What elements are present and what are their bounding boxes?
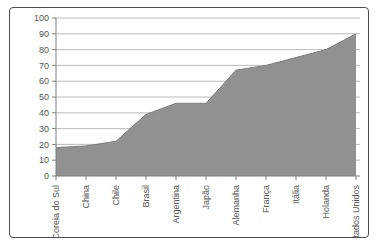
x-axis-labels: Coreia do SulChinaChileBrasilArgentinaJa… — [51, 185, 361, 237]
x-category-label: Itália — [291, 185, 301, 204]
x-category-label: Japão — [201, 185, 211, 210]
x-category-label: Estados Unidos — [351, 185, 361, 237]
x-category-label: China — [81, 185, 91, 209]
screenshot-root: 0102030405060708090100 Coreia do SulChin… — [0, 0, 378, 248]
x-category-label: Coreia do Sul — [51, 185, 61, 237]
area-chart: 0102030405060708090100 Coreia do SulChin… — [10, 8, 368, 237]
y-axis-labels: 0102030405060708090100 — [34, 13, 49, 181]
area-series — [56, 34, 356, 176]
area-fill — [56, 34, 356, 176]
x-category-label: França — [261, 185, 271, 213]
y-tick-label: 60 — [39, 76, 49, 86]
y-tick-label: 70 — [39, 61, 49, 71]
x-category-label: Chile — [111, 185, 121, 206]
y-tick-label: 20 — [39, 140, 49, 150]
chart-frame: 0102030405060708090100 Coreia do SulChin… — [9, 7, 369, 238]
x-category-label: Argentina — [171, 185, 181, 224]
x-category-label: Brasil — [141, 185, 151, 208]
y-tick-label: 100 — [34, 13, 49, 23]
y-tick-label: 0 — [44, 171, 49, 181]
y-tick-label: 40 — [39, 108, 49, 118]
y-tick-label: 50 — [39, 92, 49, 102]
y-tick-label: 80 — [39, 45, 49, 55]
y-tick-label: 30 — [39, 124, 49, 134]
y-tick-label: 10 — [39, 155, 49, 165]
y-tick-label: 90 — [39, 29, 49, 39]
x-category-label: Holanda — [321, 185, 331, 219]
x-category-label: Alemanha — [231, 185, 241, 226]
